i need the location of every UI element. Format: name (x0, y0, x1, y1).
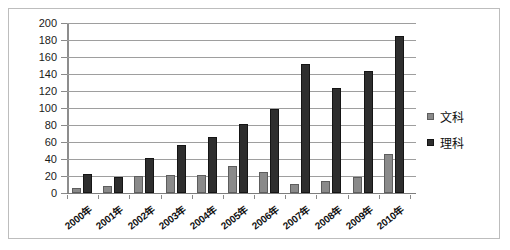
y-axis-tick-label: 60 (45, 136, 57, 148)
x-axis-tick (316, 195, 317, 199)
y-axis-tick-label: 80 (45, 119, 57, 131)
y-axis-tick (61, 193, 67, 194)
chart-legend: 文科理科 (427, 109, 493, 161)
x-axis-tick-label: 2006年 (248, 201, 282, 232)
bar-like[interactable] (364, 71, 373, 193)
bar-group (98, 23, 129, 193)
bar-like[interactable] (83, 174, 92, 193)
bar-like[interactable] (239, 124, 248, 193)
chart-frame: 200180160140120100806040200 2000年2001年20… (8, 8, 500, 239)
y-axis-tick-label: 140 (39, 68, 57, 80)
x-axis-tick (161, 195, 162, 199)
bar-wenke[interactable] (228, 166, 237, 193)
x-axis-tick (129, 195, 130, 199)
bar-like[interactable] (177, 145, 186, 193)
x-axis-tick-label: 2008年 (310, 201, 344, 232)
bar-group (379, 23, 410, 193)
bar-group (129, 23, 160, 193)
bar-group (285, 23, 316, 193)
y-axis-tick-labels: 200180160140120100806040200 (9, 23, 57, 193)
y-axis-tick-label: 180 (39, 34, 57, 46)
x-axis-tick-labels: 2000年2001年2002年2003年2004年2005年2006年2007年… (61, 195, 416, 239)
bar-like[interactable] (208, 137, 217, 193)
bar-wenke[interactable] (321, 181, 330, 193)
bar-wenke[interactable] (166, 175, 175, 193)
bar-group (67, 23, 98, 193)
bar-group (348, 23, 379, 193)
x-axis-tick-label: 2010年 (373, 201, 407, 232)
x-axis-tick (254, 195, 255, 199)
x-axis-tick (67, 195, 68, 199)
y-axis-tick-label: 20 (45, 170, 57, 182)
bar-like[interactable] (114, 177, 123, 193)
bar-like[interactable] (270, 109, 279, 193)
bar-group (316, 23, 347, 193)
bar-wenke[interactable] (197, 175, 206, 193)
legend-swatch-icon (427, 113, 434, 120)
x-axis-tick (285, 195, 286, 199)
legend-swatch-icon (427, 139, 434, 146)
y-axis-tick-label: 40 (45, 153, 57, 165)
bar-like[interactable] (301, 64, 310, 193)
bar-group (223, 23, 254, 193)
bar-wenke[interactable] (384, 154, 393, 193)
legend-item[interactable]: 文科 (427, 109, 493, 123)
bar-like[interactable] (395, 36, 404, 193)
bar-wenke[interactable] (353, 177, 362, 193)
x-axis-tick-label: 2000年 (61, 201, 95, 232)
bar-wenke[interactable] (72, 188, 81, 193)
y-axis-tick-label: 0 (51, 187, 57, 199)
bar-wenke[interactable] (134, 176, 143, 193)
bar-group (161, 23, 192, 193)
axis-baseline (67, 193, 416, 194)
legend-item[interactable]: 理科 (427, 135, 493, 149)
x-axis-tick-label: 2005年 (217, 201, 251, 232)
x-axis-tick-label: 2002年 (123, 201, 157, 232)
bar-like[interactable] (332, 88, 341, 193)
bar-wenke[interactable] (103, 186, 112, 193)
x-axis-tick-label: 2009年 (342, 201, 376, 232)
bar-wenke[interactable] (290, 184, 299, 193)
x-axis-tick (348, 195, 349, 199)
x-axis-tick (410, 195, 411, 199)
y-axis-tick-label: 200 (39, 17, 57, 29)
bar-group (192, 23, 223, 193)
x-axis-tick-label: 2003年 (155, 201, 189, 232)
y-axis-tick-label: 120 (39, 85, 57, 97)
legend-label: 理科 (440, 134, 464, 151)
x-axis-tick (223, 195, 224, 199)
x-axis-tick (379, 195, 380, 199)
x-axis-tick-label: 2001年 (92, 201, 126, 232)
x-axis-tick-label: 2004年 (186, 201, 220, 232)
x-axis-tick-label: 2007年 (279, 201, 313, 232)
bar-wenke[interactable] (259, 172, 268, 193)
bar-group (254, 23, 285, 193)
bar-like[interactable] (145, 158, 154, 193)
legend-label: 文科 (440, 108, 464, 125)
x-axis-tick (192, 195, 193, 199)
y-axis-tick-label: 100 (39, 102, 57, 114)
plot-area (61, 23, 416, 193)
x-axis-tick (98, 195, 99, 199)
y-axis-tick-label: 160 (39, 51, 57, 63)
